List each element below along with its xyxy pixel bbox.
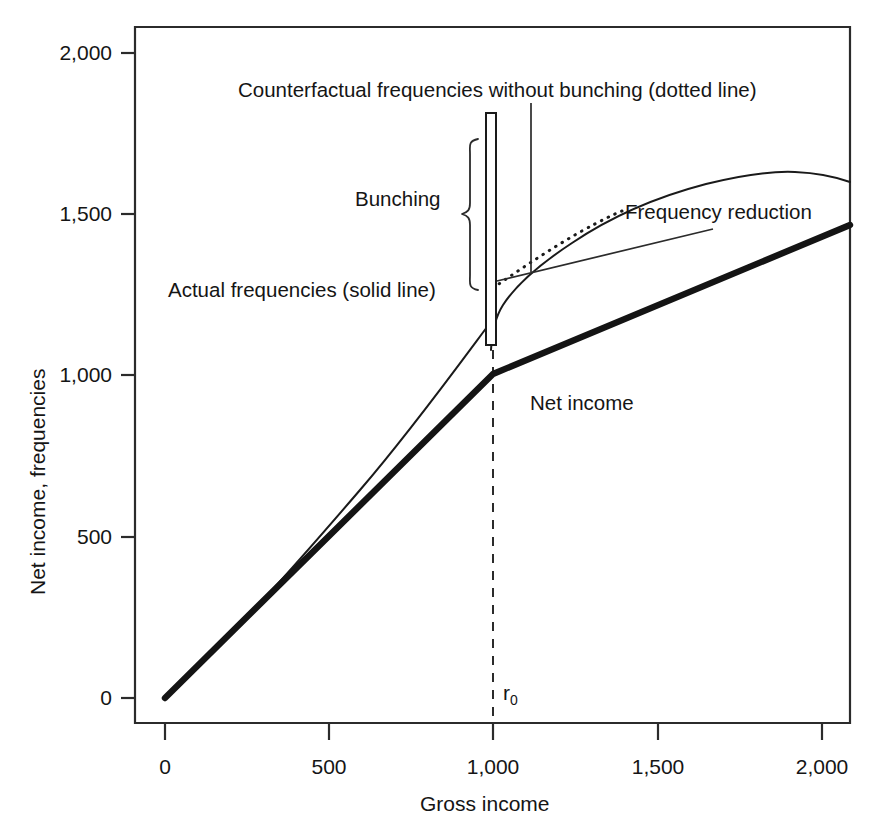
annotation-actual-frequencies: Actual frequencies (solid line) [168,278,436,302]
y-tick-label-0: 0 [30,686,112,710]
y-tick-label-2000: 2,000 [30,41,112,65]
y-axis-ticks [121,53,135,698]
bunching-spike [486,113,496,345]
x-axis-ticks [165,723,822,740]
threshold-label-subscript: 0 [510,692,518,708]
annotation-bunching: Bunching [355,187,440,211]
x-tick-label-0: 0 [115,755,215,779]
threshold-label-text: r [503,681,510,704]
bunching-brace [462,139,478,290]
frequency-reduction-leader-line [497,229,713,281]
threshold-label-r0: r0 [503,681,518,708]
x-tick-label-2000: 2,000 [772,755,872,779]
annotation-frequency-reduction: Frequency reduction [625,200,812,224]
x-tick-label-1500: 1,500 [608,755,708,779]
series-actual-frequencies-right [491,172,850,350]
annotation-counterfactual-frequencies: Counterfactual frequencies without bunch… [238,78,757,102]
x-tick-label-1000: 1,000 [443,755,543,779]
y-axis-title: Net income, frequencies [26,369,50,595]
y-tick-label-1500: 1,500 [30,202,112,226]
x-axis-title: Gross income [420,792,550,816]
x-tick-label-500: 500 [279,755,379,779]
plot-canvas [0,0,878,818]
annotation-net-income: Net income [530,391,634,415]
chart-figure: 2,000 1,500 1,000 500 0 0 500 1,000 1,50… [0,0,878,818]
series-actual-frequencies-left [165,323,490,698]
